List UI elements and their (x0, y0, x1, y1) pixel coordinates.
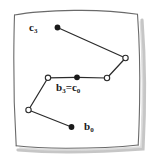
label-c3-subscript: 3 (34, 27, 38, 35)
label-b0-subscript: 0 (90, 126, 94, 134)
edge-lower-right-to-shared (77, 77, 107, 78)
figure-container: c3 b3=c0 b0 (0, 0, 154, 161)
vertex-c3-endpoint (55, 25, 61, 31)
label-b0: b0 (84, 121, 94, 132)
diagram-canvas (0, 0, 154, 161)
label-b3-subscript: 3 (62, 87, 66, 95)
label-c0-subscript: 0 (77, 87, 81, 95)
vertex-c-bend-lower-right (104, 75, 109, 80)
label-c3: c3 (29, 22, 37, 33)
vertex-b-bend-left (45, 75, 50, 80)
vertex-c-bend-upper-right (123, 55, 128, 60)
vertex-b-bend-lower-left (26, 107, 31, 112)
vertex-shared-b3-c0 (74, 74, 80, 80)
label-b3-equals-c0: b3=c0 (56, 82, 80, 93)
vertex-b0-endpoint (69, 124, 75, 130)
edge-shared-to-left-bend (48, 77, 77, 78)
